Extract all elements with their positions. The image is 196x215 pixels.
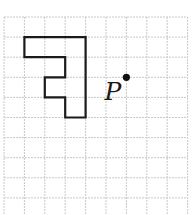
grid-lines <box>4 17 188 215</box>
grid-figure: P <box>0 0 196 215</box>
point-p-dot <box>123 74 130 81</box>
point-p-label: P <box>103 77 122 106</box>
